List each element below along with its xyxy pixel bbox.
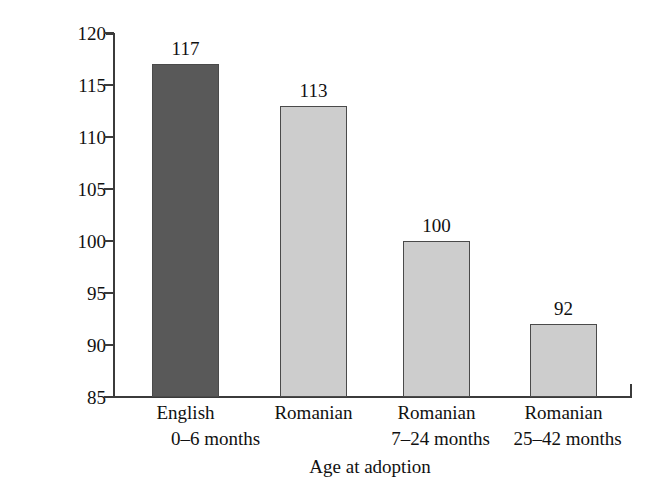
x-category-sublabel: 0–6 months [137, 428, 294, 450]
bar-value-label: 113 [255, 81, 372, 100]
bar-value-label: 100 [378, 216, 495, 235]
bar[interactable] [403, 241, 470, 397]
bar-chart-figure: IQ score at age 6 859095100105110115120 … [0, 0, 664, 500]
bar[interactable] [530, 324, 597, 397]
x-category-label: Romanian [485, 402, 642, 424]
bar-value-label: 117 [127, 39, 244, 58]
x-category-sublabel: 25–42 months [489, 428, 646, 450]
bar[interactable] [280, 106, 347, 397]
bars-layer: 117English0–6 months113Romanian100Romani… [0, 0, 664, 500]
x-axis-title: Age at adoption [240, 456, 500, 478]
bar[interactable] [152, 64, 219, 397]
bar-value-label: 92 [505, 299, 622, 318]
